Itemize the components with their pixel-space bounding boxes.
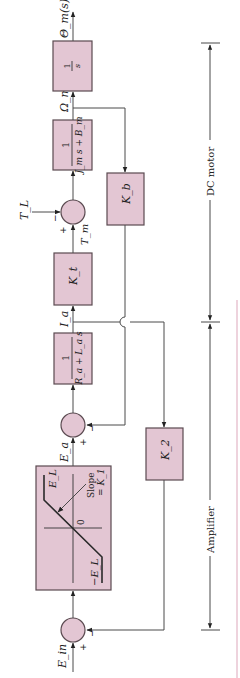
dimension-amplifier: Amplifier [201,324,220,630]
current-fb-wire-top2 [130,322,164,427]
torque-constant-block: K_t [54,253,92,305]
block-diagram: E_in + − E_L −E_L 0 Slope = K_1 E_a + − … [0,0,240,678]
current-feedback-label: K_2 [159,439,172,461]
dimension-motor: DC motor [201,43,220,322]
electrical-num: 1 [61,355,71,361]
motor-dimension-label: DC motor [205,147,216,196]
integrator-den: s [73,64,82,68]
voltage-sum-plus: + [78,438,88,446]
saturation-slope-label: Slope [86,472,96,498]
electrical-den: R_a + L_a s [74,331,85,386]
load-torque-label: T_L [18,200,31,220]
saturation-lower-label: −E_L [89,558,101,586]
voltage-sum-junction [61,413,85,437]
voltage-sum-minus: − [87,424,97,432]
torque-sum-plus: + [58,226,68,234]
electrical-block: 1 R_a + L_a s [54,331,92,386]
back-emf-label: K_b [120,183,133,205]
saturation-origin-label: 0 [76,519,86,525]
input-sum-junction [61,618,85,642]
current-label: I_a [58,311,71,328]
input-sum-plus: + [78,643,88,651]
torque-constant-label: K_t [67,266,80,286]
backemf-wire-bottom [87,225,125,425]
input-label: E_in [56,644,69,669]
saturation-slope-value: = K_1 [96,469,107,496]
integrator-block: 1 s [53,41,92,91]
mechanical-num: 1 [61,142,71,148]
current-feedback-block: K_2 [146,428,183,480]
mechanical-block: 1 J_m s + B_m [53,116,92,175]
integrator-num: 1 [63,63,72,68]
input-sum-minus: − [87,629,97,637]
amplifier-dimension-label: Amplifier [205,506,216,554]
back-emf-block: K_b [107,173,144,225]
mechanical-den: J_m s + B_m [74,116,85,175]
torque-sum-junction [61,200,85,224]
output-label: Θ_m(s) [58,0,71,38]
saturation-upper-label: E_L [47,469,59,489]
saturation-block: E_L −E_L 0 Slope = K_1 [36,466,111,590]
amp-out-label: E_a [58,442,71,463]
motor-torque-label: T_m [79,224,91,245]
torque-sum-minus: − [50,214,60,222]
